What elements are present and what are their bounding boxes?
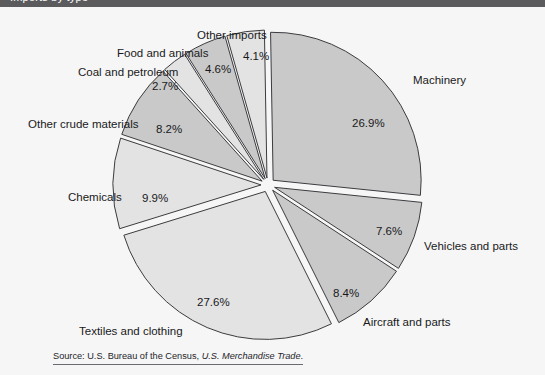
slice-label: Food and animals — [117, 48, 208, 60]
slice-label: Textiles and clothing — [79, 326, 183, 338]
pie-slice[interactable] — [271, 32, 422, 195]
slice-label: Chemicals — [68, 192, 122, 204]
slice-percent: 4.1% — [243, 51, 269, 63]
slice-percent: 8.4% — [333, 288, 359, 300]
slice-percent: 8.2% — [156, 124, 182, 136]
slice-percent: 4.6% — [205, 64, 231, 76]
pie-chart-svg — [0, 7, 545, 347]
source-suffix: . — [301, 351, 304, 361]
header-bar: Imports by type — [0, 0, 545, 7]
slice-percent: 26.9% — [352, 118, 385, 130]
header-bar-title: Imports by type — [10, 0, 88, 3]
slice-label: Other imports — [197, 30, 267, 42]
slice-label: Coal and petroleum — [78, 67, 178, 79]
source-publication: U.S. Merchandise Trade — [202, 351, 301, 361]
figure-container: Imports by type Machinery26.9%Vehicles a… — [0, 0, 545, 375]
slice-percent: 9.9% — [142, 193, 168, 205]
slice-label: Other crude materials — [28, 119, 139, 131]
source-note: Source: U.S. Bureau of the Census, U.S. … — [53, 351, 303, 365]
slice-percent: 7.6% — [376, 226, 402, 238]
slice-label: Vehicles and parts — [424, 241, 518, 253]
slice-label: Aircraft and parts — [363, 317, 451, 329]
slice-percent: 27.6% — [197, 297, 230, 309]
source-prefix: Source: U.S. Bureau of the Census, — [53, 351, 199, 361]
pie-chart: Machinery26.9%Vehicles and parts7.6%Airc… — [0, 7, 545, 347]
slice-percent: 2.7% — [152, 81, 178, 93]
slice-label: Machinery — [413, 75, 466, 87]
